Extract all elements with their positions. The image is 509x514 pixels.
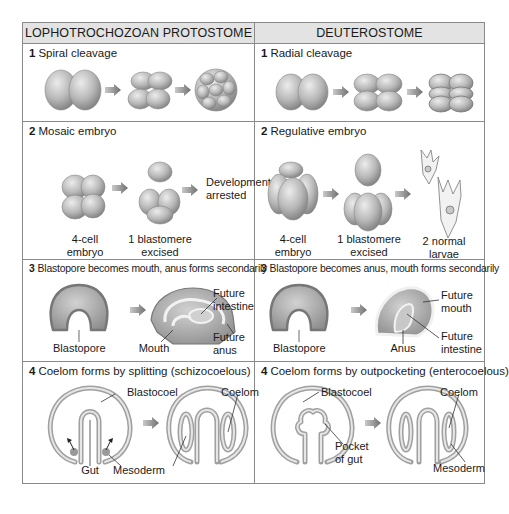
cell-deuterostome-blastopore: 3Blastopore becomes anus, mouth forms se… xyxy=(255,260,484,361)
cell-enterocoelous: 4Coelom forms by outpocketing (enterocoe… xyxy=(255,362,484,483)
label-mesoderm: Mesoderm xyxy=(433,462,485,475)
cell-schizocoelous: 4Coelom forms by splitting (schizocoelou… xyxy=(23,362,254,483)
cell-radial-cleavage: 1Radial cleavage xyxy=(255,44,484,121)
label-gut: Gut xyxy=(77,464,103,477)
label-4-cell-embryo: 4-cell embryo xyxy=(65,233,105,259)
label-blastocoel: Blastocoel xyxy=(127,386,178,399)
label-future-intestine: Future intestine xyxy=(441,330,482,356)
label-coelom: Coelom xyxy=(221,386,259,399)
cell-mosaic-embryo: 2Mosaic embryo Development arrested 4-ce… xyxy=(23,122,254,259)
header-protostome: LOPHOTROCHOZOAN PROTOSTOME xyxy=(23,23,254,44)
cell-spiral-cleavage: 1Spiral cleavage xyxy=(23,44,254,121)
label-future-anus: Future anus xyxy=(213,331,245,357)
label-mesoderm: Mesoderm xyxy=(113,464,165,477)
label-4-cell-embryo: 4-cell embryo xyxy=(273,233,313,259)
cell-protostome-blastopore: 3Blastopore becomes mouth, anus forms se… xyxy=(23,260,254,361)
label-future-mouth: Future mouth xyxy=(441,289,473,315)
header-deuterostome: DEUTEROSTOME xyxy=(255,23,484,44)
label-anus: Anus xyxy=(389,342,417,355)
radial-cleavage-illustration xyxy=(255,44,484,121)
label-blastomere-excised: 1 blastomere excised xyxy=(125,233,195,259)
comparison-table: LOPHOTROCHOZOAN PROTOSTOME DEUTEROSTOME … xyxy=(22,22,485,484)
label-blastomere-excised: 1 blastomere excised xyxy=(335,233,403,259)
label-future-intestine: Future intestine xyxy=(213,287,254,313)
label-blastocoel: Blastocoel xyxy=(321,386,372,399)
label-coelom: Coelom xyxy=(440,386,478,399)
cell-regulative-embryo: 2Regulative embryo 4-cell embryo 1 bla xyxy=(255,122,484,259)
spiral-cleavage-illustration xyxy=(23,44,254,121)
label-blastopore: Blastopore xyxy=(53,342,105,355)
label-mouth: Mouth xyxy=(137,342,171,355)
label-2-normal-larvae: 2 normal larvae xyxy=(419,235,469,261)
larva-icon xyxy=(421,150,461,238)
label-blastopore: Blastopore xyxy=(273,342,325,355)
label-pocket-of-gut: Pocket of gut xyxy=(335,440,369,466)
